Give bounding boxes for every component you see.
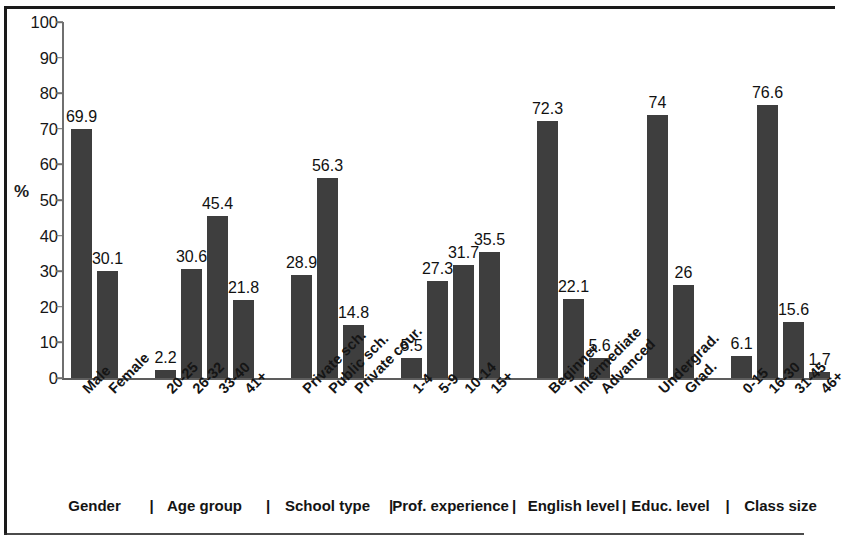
group-legend-item: Gender xyxy=(68,497,121,514)
group-legend-separator: | xyxy=(512,497,516,514)
bar-value-label: 74 xyxy=(634,95,682,111)
bar xyxy=(427,281,448,378)
group-legend-item: Educ. level xyxy=(631,497,709,514)
bar xyxy=(207,216,228,378)
group-legend-item: Class size xyxy=(744,497,817,514)
y-axis-tick-mark xyxy=(56,92,63,94)
y-axis-tick-mark xyxy=(56,21,63,23)
y-axis-tick-mark xyxy=(56,306,63,308)
group-legend-separator: | xyxy=(266,497,270,514)
bar-value-label: 45.4 xyxy=(194,196,242,212)
bar-value-label: 30.1 xyxy=(84,251,132,267)
y-axis-tick-mark xyxy=(56,164,63,166)
y-axis-tick-mark xyxy=(56,57,63,59)
group-legend-item: Age group xyxy=(167,497,242,514)
bar-value-label: 26 xyxy=(660,265,708,281)
bar-value-label: 22.1 xyxy=(550,279,598,295)
bar xyxy=(479,252,500,378)
bar xyxy=(537,121,558,378)
group-legend-item: Prof. experience xyxy=(392,497,509,514)
bar-chart: % 0102030405060708090100 69.930.12.230.6… xyxy=(0,0,860,544)
bar-value-label: 14.8 xyxy=(330,305,378,321)
bar xyxy=(453,265,474,378)
bar xyxy=(97,271,118,378)
bar-value-label: 56.3 xyxy=(304,158,352,174)
y-axis-tick-mark xyxy=(56,377,63,379)
group-legend-item: School type xyxy=(285,497,370,514)
bar-value-label: 15.6 xyxy=(770,302,818,318)
group-legend-separator: | xyxy=(622,497,626,514)
y-axis-tick-mark xyxy=(56,235,63,237)
group-legend-separator: | xyxy=(150,497,154,514)
bar-value-label: 76.6 xyxy=(744,85,792,101)
y-axis-tick-mark xyxy=(56,128,63,130)
bar-value-label: 35.5 xyxy=(466,232,514,248)
group-legend: Gender|Age group|School type|Prof. exper… xyxy=(62,492,832,518)
bar xyxy=(757,105,778,378)
y-axis-tick-mark xyxy=(56,270,63,272)
y-axis-tick-mark xyxy=(56,342,63,344)
bars-layer: 69.930.12.230.645.421.828.956.314.85.527… xyxy=(0,0,860,378)
bar-value-label: 21.8 xyxy=(220,280,268,296)
y-axis-tick-mark xyxy=(56,199,63,201)
group-legend-item: English level xyxy=(528,497,620,514)
bar xyxy=(291,275,312,378)
group-legend-separator: | xyxy=(726,497,730,514)
bar-value-label: 69.9 xyxy=(58,109,106,125)
bar-value-label: 72.3 xyxy=(524,101,572,117)
